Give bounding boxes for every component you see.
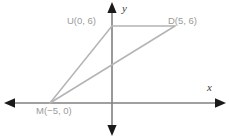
x-axis-label: x (207, 82, 212, 93)
coordinate-geometry-figure: y x U(0, 6) D(5, 6) M(−5, 0) (0, 0, 229, 139)
segment-m-u (50, 26, 112, 103)
vertex-label-u: U(0, 6) (67, 16, 96, 26)
y-axis-label: y (122, 3, 127, 14)
y-axis-top-arrowhead (107, 2, 116, 13)
y-axis-bottom-arrowhead (107, 125, 116, 136)
vertex-label-m: M(−5, 0) (36, 106, 72, 116)
vertex-label-d: D(5, 6) (168, 16, 197, 26)
x-axis-left-arrowhead (4, 98, 15, 108)
x-axis-right-arrowhead (215, 98, 226, 108)
